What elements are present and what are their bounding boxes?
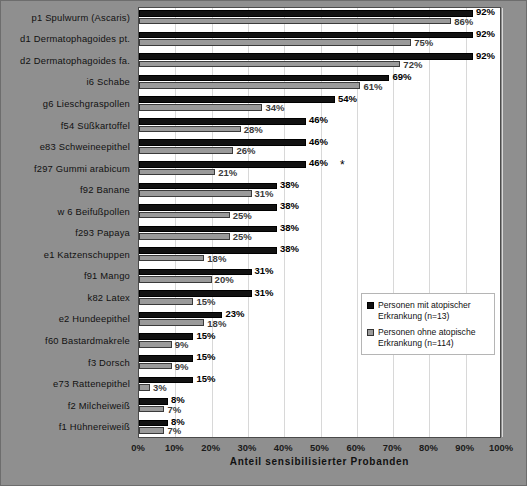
- bar-atopic: [139, 398, 168, 405]
- bar-value-atopic: 15%: [196, 331, 215, 340]
- bar-value-nonatopic: 61%: [363, 82, 382, 91]
- x-tick-label: 20%: [201, 442, 220, 453]
- bar-row: 38%31%: [139, 180, 500, 202]
- bar-nonatopic: [139, 384, 150, 391]
- chart-container: p1 Spulwurm (Ascaris)d1 Dermatophagoides…: [0, 0, 527, 486]
- bar-row: 38%18%: [139, 245, 500, 267]
- bar-value-nonatopic: 21%: [218, 168, 237, 177]
- bar-row: 92%72%: [139, 51, 500, 73]
- bar-nonatopic: [139, 126, 241, 133]
- legend-item-nonatopic: Personen ohne atopische Erkrankung (n=11…: [367, 327, 489, 348]
- x-axis-ticks: 0%10%20%30%40%50%60%70%80%90%100%: [138, 439, 501, 455]
- legend-swatch-atopic-icon: [367, 302, 374, 309]
- category-label: k82 Latex: [1, 292, 130, 303]
- x-tick-label: 100%: [489, 442, 513, 453]
- legend-label-nonatopic: Personen ohne atopische Erkrankung (n=11…: [378, 327, 489, 348]
- bar-value-nonatopic: 18%: [207, 254, 226, 263]
- bar-value-atopic: 69%: [392, 72, 411, 81]
- category-label: i6 Schabe: [1, 76, 130, 87]
- bar-value-nonatopic: 72%: [403, 60, 422, 69]
- bar-value-atopic: 92%: [476, 51, 495, 60]
- bar-nonatopic: [139, 104, 262, 111]
- bar-value-atopic: 54%: [338, 94, 357, 103]
- bar-row: 46%28%: [139, 116, 500, 138]
- x-tick-label: 80%: [419, 442, 438, 453]
- bar-value-nonatopic: 25%: [233, 211, 252, 220]
- bar-atopic: [139, 420, 168, 427]
- x-axis-title: Anteil sensibilisierter Probanden: [138, 456, 501, 467]
- bar-nonatopic: [139, 427, 164, 434]
- category-label: w 6 Beifußpollen: [1, 206, 130, 217]
- bar-atopic: [139, 96, 335, 103]
- bar-atopic: [139, 269, 252, 276]
- bar-nonatopic: [139, 39, 411, 46]
- legend-item-atopic: Personen mit atopischer Erkrankung (n=13…: [367, 300, 489, 321]
- bar-nonatopic: [139, 82, 360, 89]
- x-tick-label: 90%: [455, 442, 474, 453]
- category-label: f293 Papaya: [1, 227, 130, 238]
- bar-value-nonatopic: 25%: [233, 232, 252, 241]
- category-label: f54 Süßkartoffel: [1, 120, 130, 131]
- bar-value-atopic: 92%: [476, 29, 495, 38]
- bar-value-atopic: 46%: [309, 158, 328, 167]
- x-tick-label: 10%: [165, 442, 184, 453]
- x-tick-label: 70%: [383, 442, 402, 453]
- bar-row: 38%25%: [139, 202, 500, 224]
- x-tick-label: 40%: [274, 442, 293, 453]
- bar-value-nonatopic: 86%: [454, 17, 473, 26]
- bar-value-nonatopic: 20%: [215, 275, 234, 284]
- bar-value-nonatopic: 31%: [255, 189, 274, 198]
- bar-nonatopic: [139, 233, 230, 240]
- category-label: d1 Dermatophagoides pt.: [1, 33, 130, 44]
- bar-nonatopic: [139, 212, 230, 219]
- bar-atopic: [139, 226, 277, 233]
- bar-row: 8%7%: [139, 396, 500, 418]
- bar-value-nonatopic: 7%: [167, 426, 181, 435]
- bar-value-nonatopic: 75%: [414, 38, 433, 47]
- bar-atopic: [139, 53, 473, 60]
- bar-value-atopic: 15%: [196, 374, 215, 383]
- bar-nonatopic: [139, 363, 172, 370]
- category-label: f91 Mango: [1, 270, 130, 281]
- bar-row: 15%9%: [139, 353, 500, 375]
- bar-row: 46%21%*: [139, 159, 500, 181]
- bar-nonatopic: [139, 298, 193, 305]
- bar-value-atopic: 92%: [476, 7, 495, 16]
- bar-value-atopic: 38%: [280, 201, 299, 210]
- plot-area: 92%86%92%75%92%72%69%61%54%34%46%28%46%2…: [138, 7, 501, 438]
- category-label: p1 Spulwurm (Ascaris): [1, 12, 130, 23]
- bar-atopic: [139, 118, 306, 125]
- bar-value-nonatopic: 3%: [153, 383, 167, 392]
- bar-value-atopic: 38%: [280, 180, 299, 189]
- bar-value-atopic: 15%: [196, 352, 215, 361]
- bar-atopic: [139, 10, 473, 17]
- category-label: f60 Bastardmakrele: [1, 335, 130, 346]
- bar-value-atopic: 31%: [255, 266, 274, 275]
- bar-value-atopic: 46%: [309, 115, 328, 124]
- bar-value-atopic: 46%: [309, 137, 328, 146]
- bar-nonatopic: [139, 319, 204, 326]
- category-label: e73 Rattenepithel: [1, 378, 130, 389]
- bar-value-nonatopic: 28%: [244, 125, 263, 134]
- legend-swatch-nonatopic-icon: [367, 329, 374, 336]
- category-label: f3 Dorsch: [1, 357, 130, 368]
- bar-row: 92%75%: [139, 30, 500, 52]
- bar-row: 8%7%: [139, 417, 500, 439]
- bar-value-nonatopic: 15%: [196, 297, 215, 306]
- bar-row: 38%25%: [139, 224, 500, 246]
- x-tick-label: 60%: [346, 442, 365, 453]
- bar-row: 54%34%: [139, 94, 500, 116]
- bar-nonatopic: [139, 255, 204, 262]
- bar-nonatopic: [139, 147, 233, 154]
- bar-value-atopic: 38%: [280, 223, 299, 232]
- legend-label-atopic: Personen mit atopischer Erkrankung (n=13…: [378, 300, 489, 321]
- category-label: f2 Milcheiweiß: [1, 400, 130, 411]
- bar-value-atopic: 8%: [171, 395, 185, 404]
- bar-nonatopic: [139, 169, 215, 176]
- gridline-100: [502, 8, 503, 437]
- chart-legend: Personen mit atopischer Erkrankung (n=13…: [361, 293, 495, 355]
- bar-nonatopic: [139, 276, 212, 283]
- bar-nonatopic: [139, 190, 252, 197]
- bar-row: 31%20%: [139, 267, 500, 289]
- bar-value-nonatopic: 26%: [236, 146, 255, 155]
